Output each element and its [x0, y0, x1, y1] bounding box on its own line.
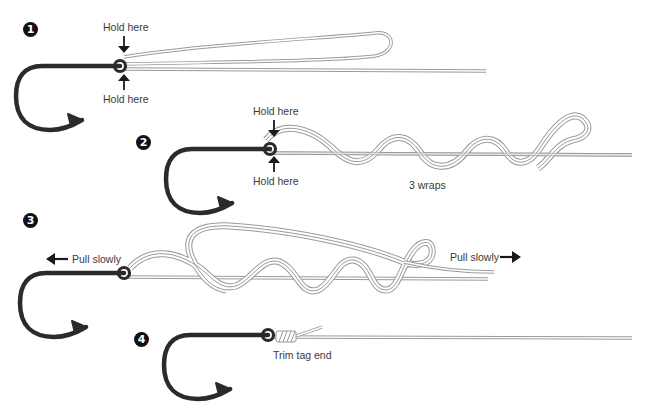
step-2-hold-bottom-label: Hold here — [253, 176, 299, 187]
step-3-pull-right-label: Pull slowly — [450, 252, 499, 263]
step-2-badge: 2 — [136, 135, 151, 150]
step-2-wraps-label: 3 wraps — [409, 180, 446, 191]
step-2-illustration — [166, 116, 632, 213]
step-3-arrow-left-icon — [46, 253, 68, 265]
step-3-arrow-right-icon — [500, 251, 521, 263]
step-4-trim-label: Trim tag end — [273, 350, 332, 361]
step-4-line — [272, 327, 632, 342]
step-2-hold-top-label: Hold here — [253, 106, 299, 117]
step-1-illustration — [16, 33, 486, 130]
knot-diagram: 1 2 3 4 Hold here Hold here Hold here Ho… — [0, 0, 664, 414]
step-3-badge: 3 — [23, 213, 38, 228]
step-1-badge: 1 — [23, 22, 38, 37]
diagram-canvas — [0, 0, 664, 414]
step-1-arrow-up-icon — [118, 74, 130, 90]
step-3-pull-left-label: Pull slowly — [72, 254, 121, 265]
step-3-illustration — [20, 226, 521, 337]
step-1-line — [124, 33, 486, 71]
step-2-line — [266, 116, 632, 168]
step-4-badge: 4 — [134, 332, 149, 347]
step-3-line — [126, 226, 494, 291]
step-4-illustration — [164, 327, 632, 399]
step-1-arrow-down-icon — [118, 36, 130, 53]
step-1-hold-top-label: Hold here — [103, 22, 149, 33]
step-2-arrow-up-icon — [268, 156, 280, 172]
step-4-hook — [164, 330, 274, 400]
step-3-hook — [20, 268, 130, 338]
step-1-hold-bottom-label: Hold here — [103, 94, 149, 105]
